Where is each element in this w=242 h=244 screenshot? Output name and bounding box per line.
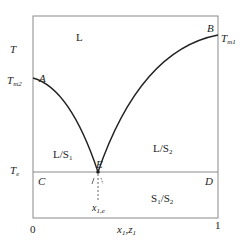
x-tick-1: 1 <box>215 219 221 231</box>
tm2-label: Tm2 <box>7 74 22 88</box>
point-e-label: E <box>95 158 103 170</box>
point-c-label: C <box>38 175 46 187</box>
te-label: Te <box>10 164 19 178</box>
eutectic-composition-label: x1,e <box>91 202 105 215</box>
tm1-label: Tm1 <box>221 32 236 46</box>
point-a-label: A <box>38 72 46 84</box>
plot-frame <box>33 16 218 218</box>
region-liquid-label: L <box>76 31 83 43</box>
y-axis-label: T <box>10 43 17 55</box>
region-l-s2-label: L/S2 <box>153 142 173 156</box>
eutectic-point <box>96 170 100 174</box>
x-axis-label: x1,z1 <box>116 223 136 237</box>
phase-diagram: T Tm2 Tm1 Te A B C D E L L/S1 L/S2 S1/S2… <box>0 0 242 244</box>
tick-right-mark <box>101 178 103 184</box>
point-b-label: B <box>207 22 214 34</box>
x-tick-0: 0 <box>30 223 36 235</box>
region-l-s1-label: L/S1 <box>53 148 73 162</box>
point-d-label: D <box>204 175 213 187</box>
tick-left-mark <box>92 178 94 184</box>
region-s1-s2-label: S1/S2 <box>151 192 174 206</box>
